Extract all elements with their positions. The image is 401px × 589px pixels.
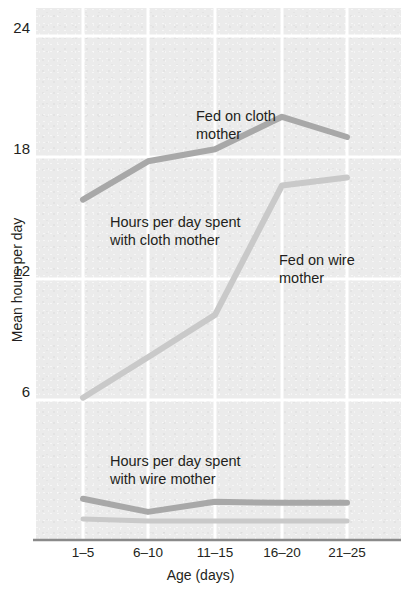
x-tick-21-25: 21–25 [328, 546, 366, 560]
x-tick-16-20: 16–20 [263, 546, 301, 560]
y-tick-18: 18 [0, 141, 30, 156]
x-axis-title: Age (days) [0, 567, 401, 583]
x-tick-1-5: 1–5 [72, 546, 95, 560]
x-tick-11-15: 11–15 [197, 546, 234, 560]
x-tick-6-10: 6–10 [133, 546, 163, 560]
line-chart: Fed on cloth mother Hours per day spent … [0, 0, 401, 589]
annotation-hours-with-cloth-mother: Hours per day spent with cloth mother [110, 213, 241, 249]
y-tick-6: 6 [0, 384, 30, 399]
y-axis-title: Mean hours per day [9, 185, 25, 375]
annotation-fed-on-wire: Fed on wire mother [279, 251, 355, 287]
axes-svg [0, 0, 401, 589]
y-tick-24: 24 [0, 20, 30, 35]
annotation-hours-with-wire-mother: Hours per day spent with wire mother [110, 452, 241, 488]
annotation-fed-on-cloth: Fed on cloth mother [196, 107, 276, 143]
